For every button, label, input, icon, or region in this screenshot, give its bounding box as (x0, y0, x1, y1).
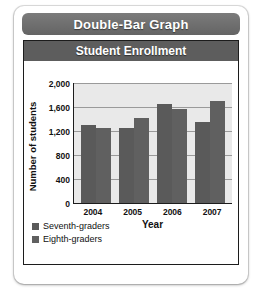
bar (81, 125, 96, 203)
bar (210, 101, 225, 203)
y-axis-tick: 2,000 (49, 79, 70, 89)
x-axis-tick: 2004 (83, 207, 102, 217)
bar-group (81, 83, 111, 203)
y-axis-tick: 0 (65, 199, 70, 209)
y-axis-tick: 1,200 (49, 127, 70, 137)
legend-item: Seventh-graders (32, 221, 110, 231)
y-axis-tick: 800 (56, 151, 70, 161)
bar (172, 109, 187, 203)
double-bar-graph-card: Double-Bar Graph Student Enrollment Numb… (14, 6, 248, 284)
y-axis-tick: 1,600 (49, 103, 70, 113)
x-axis-ticks: 2004200520062007 (73, 207, 232, 219)
legend-label: Eighth-graders (43, 234, 102, 244)
y-axis-ticks: 04008001,2001,6002,000 (39, 83, 72, 205)
bar-groups (74, 83, 232, 203)
legend-label: Seventh-graders (43, 221, 110, 231)
legend-item: Eighth-graders (32, 234, 110, 244)
graph-frame: Student Enrollment Number of students 04… (23, 40, 239, 265)
y-axis-label: Number of students (26, 91, 40, 201)
bar-group (195, 83, 225, 203)
plot-area-wrapper: Number of students 04008001,2001,6002,00… (24, 61, 238, 266)
bar (134, 118, 149, 203)
x-axis-tick: 2007 (203, 207, 222, 217)
y-axis-tick: 400 (56, 175, 70, 185)
legend-swatch (32, 236, 39, 243)
bar (96, 128, 111, 203)
chart-legend: Seventh-gradersEighth-graders (32, 221, 110, 247)
bar (157, 104, 172, 203)
bar (195, 122, 210, 203)
x-axis-tick: 2005 (123, 207, 142, 217)
bar (119, 128, 134, 203)
chart-title: Student Enrollment (24, 41, 238, 61)
card-header-title: Double-Bar Graph (73, 17, 188, 32)
bar-group (157, 83, 187, 203)
legend-swatch (32, 223, 39, 230)
y-axis-label-text: Number of students (28, 101, 39, 191)
card-header: Double-Bar Graph (22, 13, 240, 35)
bar-group (119, 83, 149, 203)
plot-area (73, 83, 232, 204)
x-axis-tick: 2006 (163, 207, 182, 217)
